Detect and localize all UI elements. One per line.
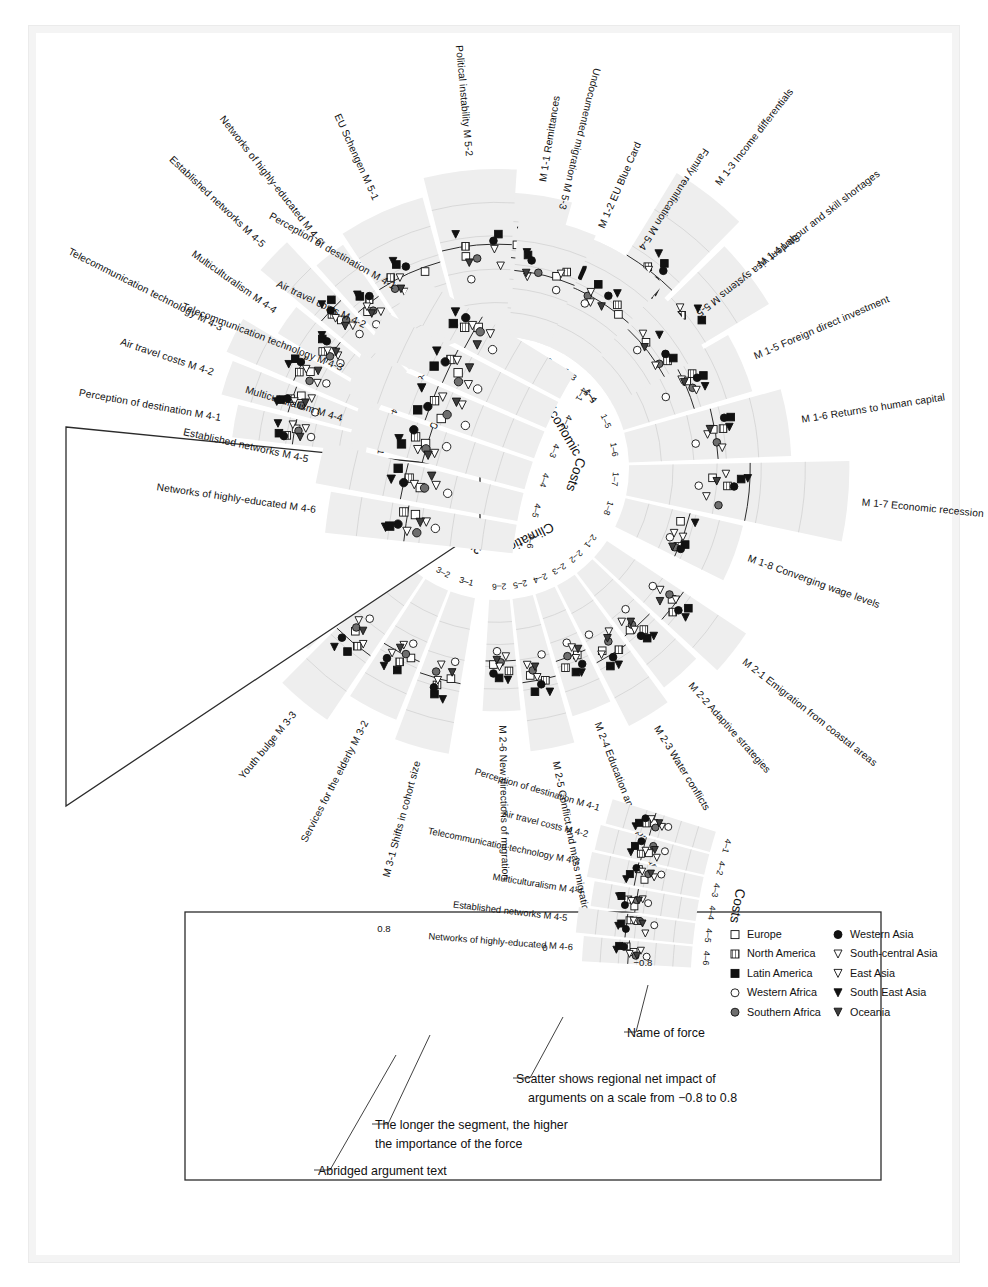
scatter-point [443, 489, 451, 497]
scatter-point [675, 607, 683, 615]
callout-tick-label: 4–3 [547, 442, 562, 459]
scatter-point [578, 660, 586, 668]
legend-item-label: Western Africa [747, 986, 817, 998]
scatter-point [473, 255, 481, 263]
scatter-point [344, 648, 352, 656]
scatter-point [490, 237, 498, 245]
scatter-point [661, 260, 669, 268]
force-label: M 3-1 Shifts in cohort size [381, 759, 423, 878]
legend-item-label: Europe [747, 928, 782, 940]
force-label: Undocumented migration M 5-3 [557, 67, 603, 211]
scatter-point [461, 421, 469, 429]
force-tick-label: 1–5 [599, 412, 614, 429]
axis-label-right: −0.8 [634, 957, 653, 968]
scatter-point [323, 380, 331, 388]
scatter-point [677, 545, 685, 553]
scatter-point [442, 442, 450, 450]
annotation-scatter-scale-2: arguments on a scale from −0.8 to 0.8 [528, 1091, 737, 1105]
legend-marker-filled-circle [834, 931, 842, 939]
scatter-point [660, 267, 668, 275]
scatter-point [531, 688, 539, 696]
scatter-point [430, 362, 438, 370]
scatter-point [615, 646, 623, 654]
scatter-point [622, 605, 630, 613]
scatter-point [666, 591, 674, 599]
legend-item-label: North America [747, 947, 815, 959]
force-tick-label: 2–6 [492, 582, 507, 592]
legend-item-label: South East Asia [850, 986, 926, 998]
radial-chart-svg: M 1-1 Remittances1–1M 1-2 EU Blue Card1–… [0, 0, 988, 1287]
legend-tick-label: 4–3 [709, 882, 722, 898]
scatter-point [432, 668, 440, 676]
force-label: M 1-6 Returns to human capital [801, 391, 946, 424]
force-label: EU Schengen M 5-1 [332, 112, 381, 202]
scatter-point [297, 358, 305, 366]
legend-tick-label: 4–6 [701, 951, 712, 966]
force-label: Air travel costs M 4-2 [119, 336, 216, 378]
scatter-point [662, 350, 670, 358]
legend-tick-label: 4–1 [720, 838, 734, 855]
scatter-point [476, 328, 484, 336]
scatter-point [614, 301, 622, 309]
scatter-point [615, 311, 623, 319]
scatter-point [715, 501, 723, 509]
scatter-point [460, 323, 468, 331]
scatter-point [633, 346, 641, 354]
scatter-point [402, 650, 410, 658]
scatter-point [338, 634, 346, 642]
legend-marker-open-circle [731, 989, 739, 997]
scatter-point [719, 425, 727, 433]
scatter-point [413, 406, 421, 414]
force-label: M 2-1 Emigration from coastal areas [741, 656, 880, 768]
scatter-point [468, 275, 476, 283]
legend-item-label: Western Asia [850, 928, 913, 940]
legend-marker-hatched-square [731, 950, 739, 958]
force-tick-label: 1–8 [602, 500, 616, 517]
force-label: M 1-2 EU Blue Card [596, 140, 643, 230]
scatter-point [621, 943, 628, 950]
scatter-point [685, 604, 693, 612]
scatter-point [383, 654, 391, 662]
scatter-point [737, 475, 745, 483]
force-segment: M 2-6 New directions of migration2–6 [483, 582, 521, 881]
annotation-segment-length: The longer the segment, the higher [375, 1118, 568, 1132]
force-tick-label: 2–4 [532, 571, 549, 586]
scatter-point [677, 518, 685, 526]
scatter-point [535, 269, 543, 277]
scatter-point [730, 483, 738, 491]
scatter-point [462, 243, 470, 251]
scatter-point [661, 848, 668, 855]
scatter-point [621, 902, 628, 909]
scatter-point [443, 410, 451, 418]
legend-tick-label: 4–2 [714, 860, 727, 877]
scatter-point [605, 292, 613, 300]
force-tick-label: 3–2 [435, 564, 453, 580]
scatter-point [528, 257, 536, 265]
force-tick-label: 3–1 [458, 575, 475, 588]
scatter-point [662, 393, 670, 401]
legend-item-label: South-central Asia [850, 947, 938, 959]
scatter-point [420, 484, 428, 492]
scatter-point [400, 508, 408, 516]
scatter-point [622, 925, 629, 932]
force-tick-label: 1–7 [610, 472, 621, 487]
scatter-point [693, 374, 701, 382]
scatter-point [306, 377, 314, 385]
scatter-point [451, 658, 459, 666]
force-label: M 1-3 Income differentials [713, 86, 795, 187]
force-label: M 1-1 Remittances [537, 95, 562, 183]
legend-item-label: Latin America [747, 967, 812, 979]
scatter-point [449, 319, 457, 327]
force-label: Perception of destination M 4-1 [78, 387, 222, 423]
legend-force-label: Air travel costs M 4-2 [501, 807, 589, 839]
scatter-point [493, 647, 501, 655]
scatter-point [413, 529, 421, 537]
scatter-point [394, 464, 402, 472]
scatter-point [424, 402, 432, 410]
annotation-segment-length-2: the importance of the force [375, 1137, 523, 1151]
force-label: M 2-2 Adaptive strategies [687, 680, 773, 775]
scatter-point [356, 330, 364, 338]
legend-item-label: Oceania [850, 1006, 890, 1018]
scatter-point [454, 377, 462, 385]
legend-force-label: Multiculturalism M 4-4 [492, 871, 584, 896]
